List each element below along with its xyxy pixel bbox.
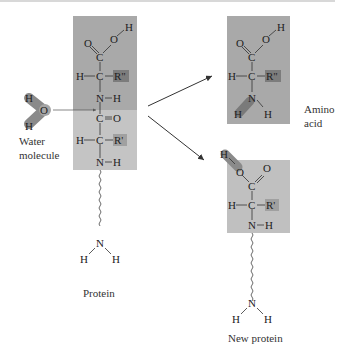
svg-text:H: H bbox=[228, 199, 236, 211]
atom-O: O bbox=[84, 37, 92, 49]
atom-H: H bbox=[80, 253, 88, 265]
atom-H: H bbox=[25, 120, 33, 132]
arrow-to-new-protein bbox=[148, 116, 204, 160]
svg-text:O: O bbox=[263, 162, 271, 174]
amino-terminus: N H H bbox=[80, 237, 120, 265]
svg-text:C: C bbox=[248, 51, 255, 63]
svg-text:N: N bbox=[248, 92, 256, 104]
atom-N: N bbox=[96, 156, 104, 168]
arrow-to-amino-acid bbox=[148, 76, 212, 106]
svg-text:H: H bbox=[265, 219, 273, 231]
svg-text:H: H bbox=[264, 313, 272, 325]
protein-label: Protein bbox=[83, 286, 115, 300]
atom-H: H bbox=[125, 21, 133, 33]
atom-O: O bbox=[40, 104, 48, 116]
atom-R-prime: R' bbox=[114, 134, 123, 146]
svg-text:O: O bbox=[262, 33, 270, 45]
protein-segment: O O H C H C R" N H C O H C R' N H bbox=[73, 16, 137, 170]
amino-terminus: N H H bbox=[232, 297, 272, 325]
new-protein-label: New protein bbox=[228, 331, 283, 345]
atom-H: H bbox=[113, 92, 121, 104]
atom-N: N bbox=[96, 92, 104, 104]
svg-text:H: H bbox=[232, 313, 240, 325]
water-label: Water molecule bbox=[19, 134, 59, 162]
polypeptide-chain bbox=[251, 233, 253, 301]
atom-N: N bbox=[96, 237, 104, 249]
svg-text:H: H bbox=[277, 21, 285, 33]
svg-text:N: N bbox=[248, 219, 256, 231]
svg-text:R": R" bbox=[266, 70, 278, 82]
atom-H: H bbox=[113, 156, 121, 168]
hydrolysis-diagram: O O H C H C R" N H C O H C R' N H N H H … bbox=[0, 0, 345, 350]
amino-acid-label: Amino acid bbox=[304, 102, 335, 130]
svg-text:C: C bbox=[248, 180, 255, 192]
amino-acid: O O H C H C R" N H H bbox=[227, 16, 290, 124]
svg-text:C: C bbox=[248, 70, 255, 82]
atom-O: O bbox=[113, 112, 121, 124]
svg-text:O: O bbox=[236, 37, 244, 49]
polypeptide-chain bbox=[99, 170, 101, 226]
atom-C: C bbox=[96, 51, 103, 63]
atom-C: C bbox=[96, 70, 103, 82]
atom-C: C bbox=[96, 134, 103, 146]
svg-text:H: H bbox=[220, 148, 228, 160]
atom-O: O bbox=[110, 33, 118, 45]
svg-text:R': R' bbox=[266, 199, 275, 211]
svg-text:C: C bbox=[248, 199, 255, 211]
svg-text:H: H bbox=[228, 70, 236, 82]
atom-H: H bbox=[25, 92, 33, 104]
new-protein: H O O C H C R' N H bbox=[220, 148, 290, 233]
atom-H: H bbox=[112, 253, 120, 265]
atom-R-double-prime: R" bbox=[114, 70, 126, 82]
svg-text:O: O bbox=[236, 166, 244, 178]
atom-H: H bbox=[76, 134, 84, 146]
svg-text:H: H bbox=[234, 108, 242, 120]
svg-text:H: H bbox=[264, 108, 272, 120]
atom-C: C bbox=[96, 112, 103, 124]
atom-H: H bbox=[76, 70, 84, 82]
svg-text:N: N bbox=[248, 297, 256, 309]
